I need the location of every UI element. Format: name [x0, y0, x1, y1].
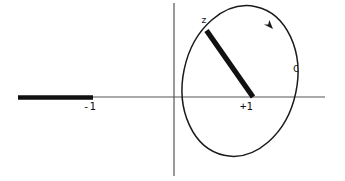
z-vector-segment	[207, 31, 254, 98]
complex-plane-figure: -1 +1 z C	[0, 0, 345, 181]
contour-c-ellipse	[168, 0, 311, 167]
label-contour-c: C	[293, 64, 299, 74]
figure-canvas	[0, 0, 345, 181]
label-plus-one: +1	[240, 101, 253, 112]
label-minus-one: -1	[83, 101, 96, 112]
contour-direction-arrowhead	[264, 20, 276, 32]
label-z: z	[201, 15, 207, 25]
